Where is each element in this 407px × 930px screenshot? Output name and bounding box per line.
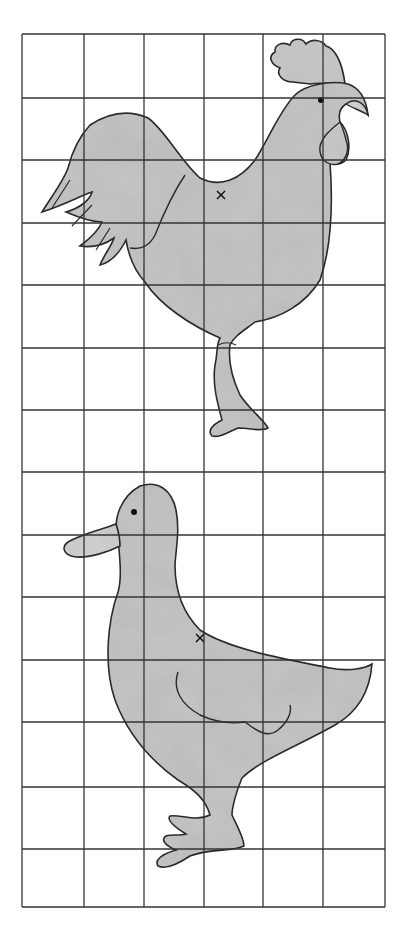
duck-bill	[64, 524, 120, 557]
grid-template-figure	[0, 0, 407, 930]
rooster-figure	[42, 39, 368, 436]
duck-body	[108, 484, 372, 867]
duck-figure	[64, 484, 372, 867]
duck-eye	[131, 509, 137, 515]
rooster-comb	[271, 39, 345, 84]
rooster-body	[42, 83, 368, 437]
